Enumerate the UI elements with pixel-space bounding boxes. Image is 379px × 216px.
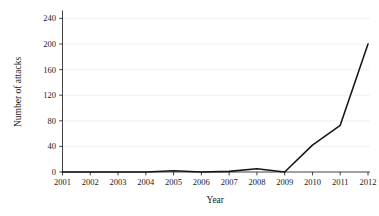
chart-figure: 04080120160200240 2001200220032004200520…: [0, 0, 379, 216]
line-chart: 04080120160200240 2001200220032004200520…: [0, 0, 379, 216]
y-axis-tick-label: 0: [52, 167, 56, 177]
x-axis-title: Year: [206, 195, 224, 205]
y-axis-tick-label: 160: [43, 65, 56, 75]
x-axis-tick-label: 2012: [360, 177, 377, 187]
x-axis-tick-label: 2002: [82, 177, 99, 187]
x-axis-tick-label: 2011: [332, 177, 349, 187]
x-axis-tick-label: 2005: [165, 177, 182, 187]
x-axis-tick-label: 2007: [221, 177, 238, 187]
y-axis-title: Number of attacks: [13, 57, 23, 127]
x-axis-tick-label: 2010: [304, 177, 321, 187]
x-axis-tick-label: 2001: [54, 177, 71, 187]
x-axis-tick-label: 2006: [193, 177, 210, 187]
y-axis-tick-label: 200: [43, 39, 56, 49]
y-axis-tick-label: 40: [48, 141, 57, 151]
x-axis-tick-label: 2009: [276, 177, 293, 187]
y-axis-tick-label: 120: [43, 90, 56, 100]
y-axis-tick-label: 240: [43, 13, 56, 23]
x-axis-tick-label: 2008: [248, 177, 265, 187]
x-axis-tick-label: 2003: [110, 177, 127, 187]
y-axis-tick-label: 80: [48, 116, 57, 126]
x-axis-tick-label: 2004: [137, 177, 155, 187]
